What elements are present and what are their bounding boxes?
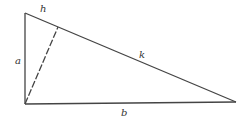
side-b: [25, 102, 236, 104]
label-a: a: [15, 55, 21, 66]
label-h: h: [40, 3, 46, 14]
label-k: k: [139, 49, 145, 60]
hypotenuse: [25, 13, 236, 102]
triangle-diagram: h a k b: [0, 0, 252, 125]
altitude-dashed: [25, 27, 58, 104]
label-b: b: [121, 107, 127, 118]
